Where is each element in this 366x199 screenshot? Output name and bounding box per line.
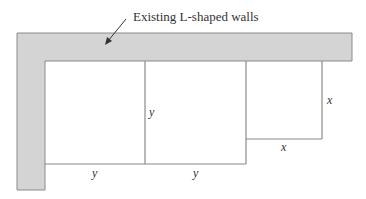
l-shaped-wall [17,33,352,190]
label-bottom-middle-y: y [192,166,199,180]
label-small-bottom-x: x [280,140,287,154]
label-middle-vertical-y: y [148,105,155,119]
label-small-right-x: x [326,93,333,107]
wall-annotation-label: Existing L-shaped walls [133,9,259,24]
label-bottom-left-y: y [91,166,98,180]
l-shaped-walls-diagram: Existing L-shaped walls y y y x x [0,0,366,199]
